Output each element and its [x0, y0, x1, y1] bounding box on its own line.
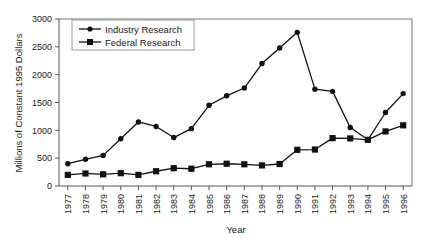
x-tick-label: 1979 — [99, 194, 109, 214]
y-axis-title: Millions of Constant 1995 Dollars — [13, 33, 24, 172]
data-point — [65, 172, 71, 178]
data-point — [224, 161, 230, 167]
data-point — [82, 170, 88, 176]
y-tick-label: 3000 — [32, 14, 52, 24]
x-tick-label: 1982 — [152, 194, 162, 214]
x-tick-label: 1980 — [116, 194, 126, 214]
y-tick-label: 1500 — [32, 98, 52, 108]
y-tick-label: 2000 — [32, 70, 52, 80]
legend-label-federal: Federal Research — [105, 37, 181, 48]
y-tick-label: 1000 — [32, 126, 52, 136]
data-point — [330, 89, 335, 94]
chart-canvas: 050010001500200025003000 197719781979198… — [0, 0, 438, 238]
data-point — [118, 170, 124, 176]
y-tick-label: 500 — [37, 153, 52, 163]
x-tick-label: 1986 — [222, 194, 232, 214]
chart-legend: Industry Research Federal Research — [72, 20, 194, 50]
y-tick-label: 0 — [47, 181, 52, 191]
x-tick-label: 1993 — [346, 194, 356, 214]
data-point — [400, 122, 406, 128]
x-tick-label: 1992 — [328, 194, 338, 214]
data-point — [100, 171, 106, 177]
legend-marker-industry — [87, 26, 92, 31]
data-point — [206, 103, 211, 108]
x-tick-label: 1984 — [187, 194, 197, 214]
data-point — [347, 135, 353, 141]
data-point — [206, 161, 212, 167]
data-point — [135, 172, 141, 178]
x-tick-label: 1991 — [310, 194, 320, 214]
x-tick-label: 1977 — [63, 194, 73, 214]
x-tick-label: 1983 — [169, 194, 179, 214]
data-point — [136, 119, 141, 124]
data-point — [365, 137, 371, 143]
data-point — [382, 128, 388, 134]
x-tick-label: 1996 — [399, 194, 409, 214]
x-tick-label: 1981 — [134, 194, 144, 214]
data-point — [348, 125, 353, 130]
y-tick-label: 2500 — [32, 42, 52, 52]
data-point — [100, 153, 105, 158]
x-tick-label: 1985 — [205, 194, 215, 214]
data-point — [259, 61, 264, 66]
data-point — [153, 168, 159, 174]
data-point — [295, 30, 300, 35]
data-point — [277, 45, 282, 50]
data-point — [329, 135, 335, 141]
data-point — [224, 93, 229, 98]
x-tick-label: 1995 — [381, 194, 391, 214]
x-tick-label: 1994 — [363, 194, 373, 214]
data-point — [188, 166, 194, 172]
data-point — [83, 157, 88, 162]
x-tick-label: 1990 — [293, 194, 303, 214]
x-tick-label: 1978 — [81, 194, 91, 214]
data-point — [400, 91, 405, 96]
x-axis-title: Year — [226, 224, 245, 235]
data-point — [242, 85, 247, 90]
legend-label-industry: Industry Research — [105, 24, 182, 35]
data-point — [277, 161, 283, 167]
data-point — [189, 126, 194, 131]
research-funding-line-chart: 050010001500200025003000 197719781979198… — [0, 0, 438, 238]
data-point — [118, 136, 123, 141]
data-point — [65, 161, 70, 166]
legend-marker-federal — [87, 39, 93, 45]
data-point — [294, 147, 300, 153]
x-tick-label: 1988 — [257, 194, 267, 214]
data-point — [171, 165, 177, 171]
data-point — [383, 110, 388, 115]
data-point — [171, 135, 176, 140]
data-point — [153, 124, 158, 129]
data-point — [259, 162, 265, 168]
data-point — [312, 146, 318, 152]
x-tick-label: 1987 — [240, 194, 250, 214]
x-tick-label: 1989 — [275, 194, 285, 214]
data-point — [312, 86, 317, 91]
data-point — [241, 161, 247, 167]
